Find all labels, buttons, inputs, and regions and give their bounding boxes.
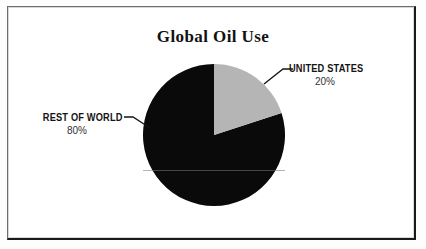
callout-percent-united-states: 20% bbox=[289, 76, 361, 87]
pie-svg bbox=[143, 64, 285, 206]
callout-percent-rest-of-world: 80% bbox=[32, 125, 122, 136]
chart-screenshot: Global Oil Use UNITED STATES 20% REST O bbox=[0, 0, 426, 249]
chart-title: Global Oil Use bbox=[0, 27, 426, 47]
pie-graphic bbox=[143, 64, 285, 206]
pie-chart-figure: Global Oil Use UNITED STATES 20% REST O bbox=[0, 0, 426, 249]
callout-united-states: UNITED STATES 20% bbox=[289, 62, 373, 87]
callout-label-united-states: UNITED STATES bbox=[289, 62, 363, 74]
callout-label-rest-of-world: REST OF WORLD bbox=[43, 111, 122, 123]
callout-rest-of-world: REST OF WORLD 80% bbox=[32, 111, 122, 136]
